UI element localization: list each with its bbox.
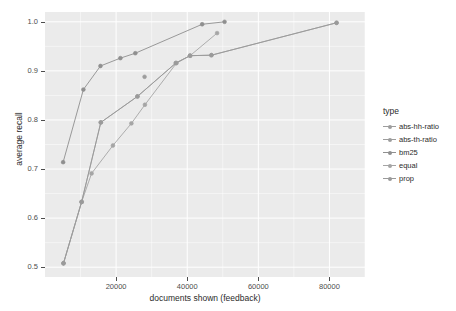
series-line bbox=[63, 23, 336, 263]
data-point bbox=[174, 61, 178, 65]
y-tick-mark bbox=[41, 169, 45, 170]
series-bm25 bbox=[61, 20, 226, 164]
data-point bbox=[82, 88, 86, 92]
x-tick-label: 60000 bbox=[248, 282, 269, 291]
y-tick-label: 0.5 bbox=[0, 262, 38, 271]
y-tick-mark bbox=[41, 218, 45, 219]
legend-item-label: abs-hh-ratio bbox=[399, 121, 439, 132]
legend-item-label: bm25 bbox=[399, 147, 418, 158]
data-point bbox=[143, 103, 147, 107]
data-point bbox=[188, 54, 192, 58]
x-tick-label: 80000 bbox=[319, 282, 340, 291]
legend: type abs-hh-ratioabs-th-ratiobm25equalpr… bbox=[383, 106, 455, 186]
legend-key-icon bbox=[383, 134, 396, 145]
legend-item-prop[interactable]: prop bbox=[383, 173, 455, 184]
plot-panel bbox=[45, 12, 365, 277]
legend-title: type bbox=[383, 106, 455, 116]
data-point bbox=[143, 75, 147, 79]
data-point bbox=[61, 160, 65, 164]
legend-key-icon bbox=[383, 160, 396, 171]
legend-item-abs-hh-ratio[interactable]: abs-hh-ratio bbox=[383, 121, 455, 132]
data-point bbox=[99, 121, 103, 125]
x-tick-label: 20000 bbox=[106, 282, 127, 291]
x-tick-mark bbox=[258, 277, 259, 281]
legend-item-abs-th-ratio[interactable]: abs-th-ratio bbox=[383, 134, 455, 145]
data-point bbox=[223, 20, 227, 24]
y-tick-mark bbox=[41, 71, 45, 72]
y-axis-label: average recall bbox=[14, 74, 24, 204]
data-point bbox=[215, 31, 219, 35]
y-tick-mark bbox=[41, 22, 45, 23]
series-abs-hh-ratio bbox=[143, 75, 147, 79]
series-line bbox=[63, 22, 224, 162]
data-layer bbox=[45, 12, 365, 277]
x-tick-mark bbox=[116, 277, 117, 281]
data-point bbox=[136, 95, 140, 99]
legend-key-icon bbox=[383, 173, 396, 184]
data-point bbox=[200, 22, 204, 26]
legend-item-equal[interactable]: equal bbox=[383, 160, 455, 171]
data-point bbox=[90, 172, 94, 176]
data-point bbox=[335, 21, 339, 25]
series-equal bbox=[62, 31, 219, 265]
x-tick-label: 40000 bbox=[177, 282, 198, 291]
legend-item-bm25[interactable]: bm25 bbox=[383, 147, 455, 158]
data-point bbox=[80, 200, 84, 204]
data-point bbox=[111, 144, 115, 148]
series-prop bbox=[62, 21, 339, 265]
legend-key-icon bbox=[383, 147, 396, 158]
data-point bbox=[99, 64, 103, 68]
legend-item-label: prop bbox=[399, 173, 414, 184]
series-line bbox=[63, 33, 217, 263]
y-tick-label: 1.0 bbox=[0, 17, 38, 26]
x-tick-mark bbox=[187, 277, 188, 281]
series-abs-th-ratio bbox=[62, 21, 339, 265]
y-tick-label: 0.6 bbox=[0, 213, 38, 222]
y-tick-mark bbox=[41, 267, 45, 268]
chart-root: 0.50.60.70.80.91.0 20000400006000080000 … bbox=[0, 0, 456, 311]
data-point bbox=[133, 51, 137, 55]
x-tick-mark bbox=[329, 277, 330, 281]
data-point bbox=[210, 53, 214, 57]
legend-item-label: equal bbox=[399, 160, 417, 171]
data-point bbox=[130, 122, 134, 126]
y-tick-mark bbox=[41, 120, 45, 121]
legend-item-label: abs-th-ratio bbox=[399, 134, 437, 145]
x-axis-label: documents shown (feedback) bbox=[45, 293, 365, 303]
series-line bbox=[63, 23, 336, 263]
legend-items: abs-hh-ratioabs-th-ratiobm25equalprop bbox=[383, 121, 455, 184]
data-point bbox=[62, 261, 66, 265]
data-point bbox=[118, 56, 122, 60]
legend-key-icon bbox=[383, 121, 396, 132]
